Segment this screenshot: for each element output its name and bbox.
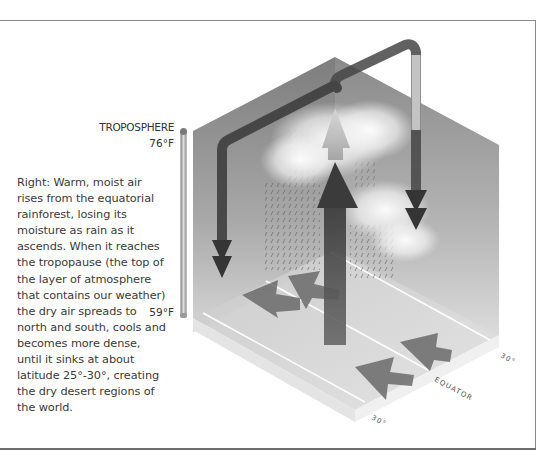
equator-label: EQUATOR: [433, 376, 474, 403]
north-30-label: 30°: [499, 352, 517, 367]
south-30-label: 30°: [370, 414, 388, 429]
hadley-cell-diagram: 30° EQUATOR 30°: [0, 0, 555, 456]
